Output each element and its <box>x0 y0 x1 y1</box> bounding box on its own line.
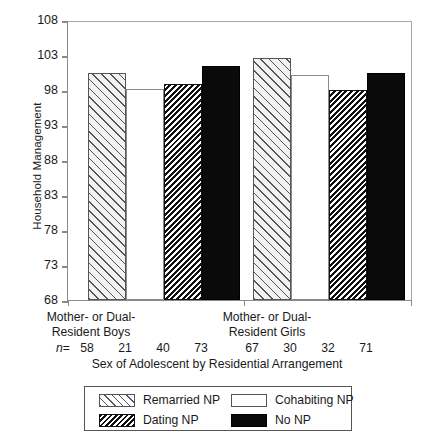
y-tickmark <box>62 56 68 57</box>
y-ticklabel: 103 <box>18 48 58 62</box>
legend-item-dating: Dating NP <box>99 413 199 427</box>
bar-boys-dating <box>164 84 202 300</box>
n-girls-dating: 32 <box>313 341 343 355</box>
group-label-girls-line2: Resident Girls <box>182 325 352 340</box>
n-symbol: n <box>56 341 63 355</box>
group-label-girls: Mother- or Dual- Resident Girls <box>182 310 352 340</box>
legend-item-nonp: No NP <box>231 413 311 427</box>
n-girls-cohabiting: 30 <box>275 341 305 355</box>
y-tickmark <box>62 126 68 127</box>
y-tickmark <box>62 231 68 232</box>
x-tick-left <box>68 300 69 306</box>
bar-girls-cohabiting <box>291 75 329 300</box>
y-ticklabel: 78 <box>18 223 58 237</box>
y-ticklabel: 98 <box>18 83 58 97</box>
legend-swatch-cohabiting-icon <box>231 394 267 407</box>
group-label-boys-line1: Mother- or Dual- <box>6 310 176 325</box>
y-ticklabel: 93 <box>18 118 58 132</box>
group-label-girls-line1: Mother- or Dual- <box>182 310 352 325</box>
legend: Remarried NP Cohabiting NP Dating NP No … <box>84 386 352 431</box>
x-tick-middle <box>244 300 245 306</box>
y-tickmark <box>62 161 68 162</box>
y-ticklabel: 73 <box>18 258 58 272</box>
y-tickmark <box>62 266 68 267</box>
y-tickmark <box>62 21 68 22</box>
group-label-boys-line2: Resident Boys <box>6 325 176 340</box>
bar-boys-remarried <box>88 73 126 301</box>
legend-item-remarried: Remarried NP <box>99 393 220 407</box>
n-boys-cohabiting: 21 <box>110 341 140 355</box>
y-ticklabel: 108 <box>18 13 58 27</box>
legend-swatch-nonp-icon <box>231 414 267 427</box>
plot-area: 68 73 78 83 88 93 98 103 <box>67 21 412 301</box>
bar-boys-cohabiting <box>126 89 164 300</box>
y-tickmark <box>62 91 68 92</box>
y-ticklabel: 83 <box>18 188 58 202</box>
legend-item-cohabiting: Cohabiting NP <box>231 393 354 407</box>
legend-swatch-dating-icon <box>99 414 135 427</box>
n-equals: = <box>63 341 70 355</box>
bar-girls-dating <box>329 90 367 300</box>
bar-boys-nonp <box>202 66 240 301</box>
x-axis-title: Sex of Adolescent by Residential Arrange… <box>0 357 434 371</box>
n-girls-remarried: 67 <box>237 341 267 355</box>
n-girls-nonp: 71 <box>351 341 381 355</box>
legend-swatch-remarried-icon <box>99 394 135 407</box>
n-boys-dating: 40 <box>148 341 178 355</box>
y-ticklabel: 68 <box>18 293 58 307</box>
group-label-boys: Mother- or Dual- Resident Boys <box>6 310 176 340</box>
legend-label-cohabiting: Cohabiting NP <box>275 393 354 407</box>
legend-label-nonp: No NP <box>275 413 311 427</box>
bar-girls-remarried <box>253 58 291 300</box>
y-tickmark <box>62 196 68 197</box>
legend-label-remarried: Remarried NP <box>143 393 220 407</box>
legend-label-dating: Dating NP <box>143 413 199 427</box>
x-tick-right <box>411 300 412 306</box>
chart-figure: Household Management 68 73 78 83 88 93 <box>0 0 434 445</box>
n-prefix: n= <box>56 341 70 355</box>
y-ticklabel: 88 <box>18 153 58 167</box>
n-boys-nonp: 73 <box>186 341 216 355</box>
n-boys-remarried: 58 <box>72 341 102 355</box>
bar-girls-nonp <box>367 73 405 300</box>
